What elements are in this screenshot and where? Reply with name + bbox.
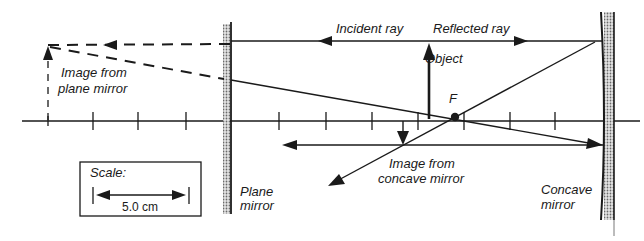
scale-left-arrow-icon xyxy=(96,190,110,200)
parallel-return-ray xyxy=(282,140,604,150)
object-label: Object xyxy=(425,51,464,66)
scale-value: 5.0 cm xyxy=(122,200,158,214)
concave-mirror xyxy=(601,12,614,236)
concave-mirror-label-1: Concave xyxy=(541,182,592,197)
plane-mirror xyxy=(223,22,231,214)
ray-arrow-icon xyxy=(586,138,603,149)
reflected-arrow-icon xyxy=(514,36,528,46)
incident-reflected-ray xyxy=(231,36,603,46)
plane-image-label-1: Image from xyxy=(61,65,127,80)
plane-image-label-2: plane mirror xyxy=(57,81,128,96)
concave-mirror-label-2: mirror xyxy=(541,197,576,212)
scale-title: Scale: xyxy=(90,165,127,180)
return-arrow-icon xyxy=(282,140,297,150)
plane-image-construction xyxy=(43,40,231,120)
virtual-ray-arrow-icon xyxy=(103,40,117,50)
concave-image-arrow xyxy=(397,121,409,145)
plane-mirror-label-1: Plane xyxy=(240,184,273,199)
reflected-arrow-down-icon xyxy=(328,174,345,186)
concave-image-label-2: concave mirror xyxy=(378,171,465,186)
incident-ray-label: Incident ray xyxy=(336,21,405,36)
principal-axis xyxy=(22,112,640,130)
incident-arrow-icon xyxy=(318,36,332,46)
focal-point xyxy=(451,113,459,121)
focal-point-label: F xyxy=(449,91,458,106)
scale-box: Scale: 5.0 cm xyxy=(80,162,201,216)
concave-image-label-1: Image from xyxy=(389,156,455,171)
reflected-ray-label: Reflected ray xyxy=(433,21,511,36)
ray-diagram: Incident ray Reflected ray Object F Imag… xyxy=(0,0,644,241)
ray-through-focus xyxy=(231,80,603,149)
scale-right-arrow-icon xyxy=(172,190,186,200)
plane-mirror-label-2: mirror xyxy=(240,198,275,213)
